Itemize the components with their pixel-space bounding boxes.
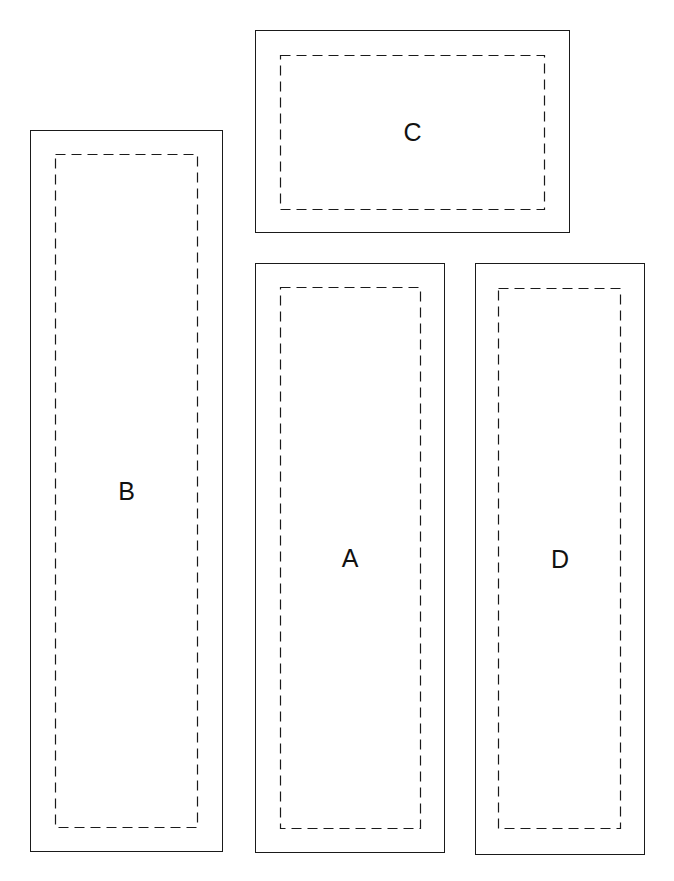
panel-label: A: [256, 546, 444, 571]
panel-label: D: [476, 547, 644, 572]
panel-label: B: [31, 479, 222, 504]
panel-label: C: [256, 119, 569, 144]
panel-c: C: [255, 30, 570, 233]
panel-d: D: [475, 263, 645, 855]
panel-a: A: [255, 263, 445, 853]
panel-b: B: [30, 130, 223, 852]
